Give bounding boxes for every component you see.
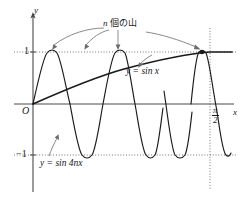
peaks-annotation-label: n 個の山 (103, 19, 137, 28)
math-figure (0, 0, 246, 198)
oscillating-curve-label: y = sin 4nx (40, 159, 83, 169)
origin-label: O (22, 106, 29, 116)
y-axis-label: y (34, 6, 38, 15)
envelope-curve-label: y = sin x (126, 67, 159, 77)
peak-touch-marker (200, 50, 204, 54)
y-tick-label-one: 1 (24, 46, 29, 56)
figure-background (0, 0, 246, 198)
x-axis-label: x (233, 108, 237, 117)
peaks-annotation-text: 個の山 (108, 18, 138, 28)
pi-over-two-denominator: 2 (212, 116, 219, 125)
x-tick-label-pi-over-two: π 2 (212, 106, 219, 126)
y-tick-label-negative-one: −1 (16, 149, 27, 159)
